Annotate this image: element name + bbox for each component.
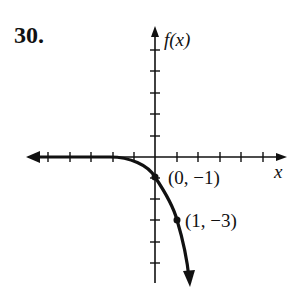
x-axis-arrow-icon bbox=[276, 153, 287, 161]
point-1-neg3 bbox=[174, 217, 181, 224]
graph-figure: 30. bbox=[0, 0, 301, 295]
point-label-1: (1, −3) bbox=[185, 210, 237, 232]
point-0-neg1 bbox=[152, 174, 159, 181]
y-axis-label: f(x) bbox=[164, 29, 190, 51]
y-axis-arrow-icon bbox=[151, 26, 159, 37]
curve-left-arrow-icon bbox=[26, 151, 40, 163]
function-curve bbox=[36, 157, 189, 278]
curve-down-arrow-icon bbox=[183, 270, 195, 287]
graph-svg: f(x) x (0, −1) (1, −3) bbox=[0, 0, 301, 295]
point-label-0: (0, −1) bbox=[168, 167, 220, 189]
x-axis-label: x bbox=[273, 161, 283, 182]
